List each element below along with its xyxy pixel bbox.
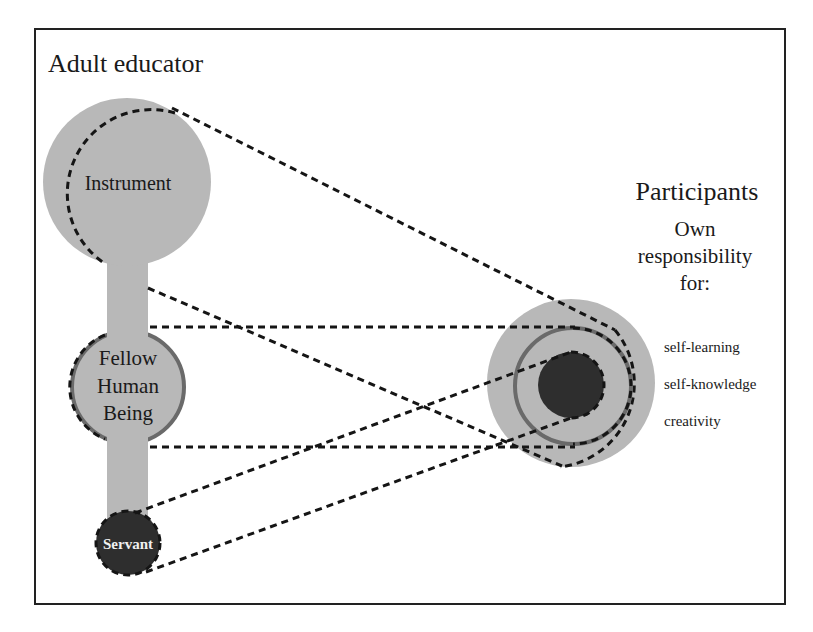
participants-item-creativity: creativity — [664, 413, 721, 429]
fellow-label-line2: Human — [97, 374, 159, 398]
instrument-label: Instrument — [85, 172, 172, 194]
diagram-title: Adult educator — [48, 49, 204, 78]
fellow-label-line1: Fellow — [99, 346, 158, 370]
adult-educator-diagram: Adult educator Instrument Fellow Human B… — [0, 0, 813, 632]
participants-sub-line3: for: — [680, 271, 710, 295]
participants-sub-line2: responsibility — [638, 244, 753, 268]
participants-item-self-knowledge: self-knowledge — [664, 376, 757, 392]
participants-item-self-learning: self-learning — [664, 339, 740, 355]
servant-label: Servant — [103, 536, 153, 552]
participants-heading: Participants — [636, 177, 759, 206]
fellow-label-line3: Being — [103, 401, 154, 425]
participants-sub-line1: Own — [675, 217, 716, 241]
